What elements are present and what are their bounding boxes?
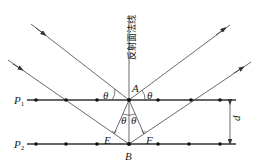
plane-p1-label: P1 (13, 94, 25, 108)
angle-theta-right: θ (147, 89, 153, 101)
angle-arc-right (142, 90, 145, 100)
incident-ray-1 (31, 24, 129, 100)
incident-ray-2 (8, 60, 129, 144)
point-f-label: F (145, 134, 153, 146)
reflected-ray-2 (129, 62, 251, 144)
spacing-d-label: d (230, 115, 242, 121)
normal-label: 反射面法线 (126, 15, 137, 60)
angle-theta-bottom-left: θ (121, 114, 127, 126)
reflected-ray-1 (129, 25, 230, 100)
point-a-label: A (131, 82, 139, 94)
arrow-icon-incident-1 (36, 28, 44, 34)
point-e-label: E (103, 134, 111, 146)
point-b-label: B (125, 150, 132, 162)
angle-theta-bottom-right: θ (131, 114, 137, 126)
arrow-icon-reflected-1 (216, 29, 224, 35)
arrow-icon-incident-2 (13, 64, 21, 69)
plane-p2-label: P2 (13, 138, 25, 152)
arrow-icon-reflected-2 (234, 68, 242, 73)
bragg-diffraction-diagram: 反射面法线 P1 P2 A B E F θ θ θ θ d (0, 0, 257, 166)
angle-arc-left (112, 89, 115, 100)
angle-theta-left: θ (103, 89, 109, 101)
